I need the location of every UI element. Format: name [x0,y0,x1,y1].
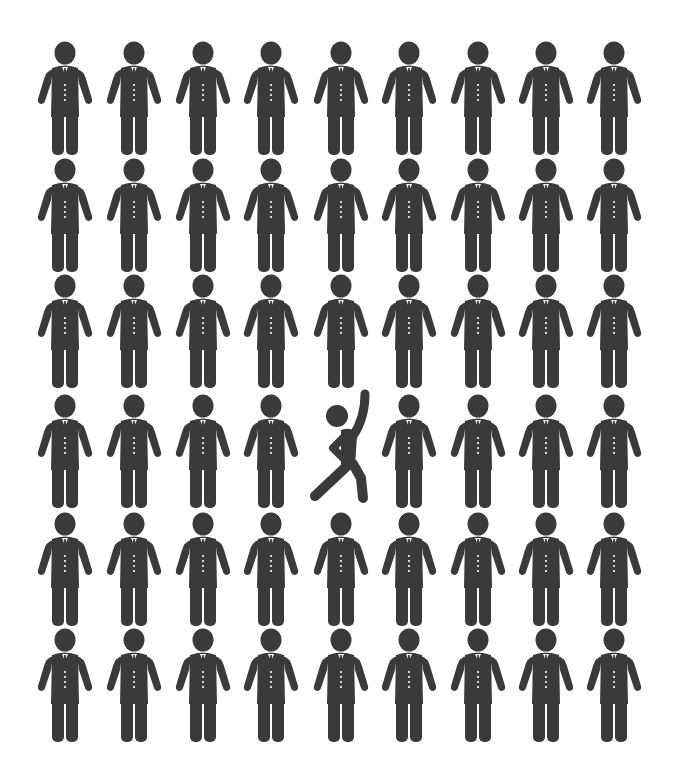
businessman-icon [173,394,233,510]
businessman-icon [104,41,164,157]
businessman-figure [104,512,164,628]
businessman-icon [173,274,233,390]
businessman-icon [35,628,95,744]
businessman-icon [584,394,644,510]
businessman-figure [516,41,576,157]
businessman-icon [173,512,233,628]
businessman-figure [379,512,439,628]
businessman-figure [173,394,233,510]
businessman-figure [311,628,371,744]
businessman-icon [35,394,95,510]
businessman-icon [173,628,233,744]
businessman-icon [311,41,371,157]
businessman-icon [516,394,576,510]
businessman-icon [516,628,576,744]
businessman-icon [448,628,508,744]
businessman-figure [104,394,164,510]
businessman-figure [584,274,644,390]
businessman-figure [516,274,576,390]
businessman-icon [241,158,301,274]
businessman-icon [379,512,439,628]
businessman-icon [241,512,301,628]
businessman-figure [379,158,439,274]
businessman-figure [35,41,95,157]
businessman-icon [35,41,95,157]
businessman-icon [584,512,644,628]
businessman-figure [173,274,233,390]
businessman-icon [516,41,576,157]
businessman-figure [311,274,371,390]
businessman-icon [516,274,576,390]
businessman-icon [516,158,576,274]
dancer-icon [303,386,383,506]
businessman-icon [379,41,439,157]
businessman-figure [241,628,301,744]
businessman-figure [584,628,644,744]
businessman-figure [516,394,576,510]
businessman-figure [584,41,644,157]
businessman-icon [448,158,508,274]
businessman-figure [311,158,371,274]
businessman-icon [584,628,644,744]
dancer-figure [303,386,383,506]
businessman-icon [35,158,95,274]
businessman-figure [448,158,508,274]
businessman-figure [516,158,576,274]
businessman-figure [35,628,95,744]
businessman-icon [104,512,164,628]
businessman-figure [173,41,233,157]
businessman-figure [35,158,95,274]
businessman-icon [35,274,95,390]
businessman-figure [311,41,371,157]
businessman-figure [241,41,301,157]
businessman-icon [241,274,301,390]
businessman-figure [35,394,95,510]
businessman-figure [104,628,164,744]
businessman-figure [379,394,439,510]
businessman-icon [584,158,644,274]
businessman-figure [173,512,233,628]
businessman-figure [448,274,508,390]
businessman-figure [379,41,439,157]
businessman-figure [241,158,301,274]
businessman-icon [584,41,644,157]
businessman-figure [584,158,644,274]
businessman-figure [448,394,508,510]
businessman-icon [311,158,371,274]
businessman-icon [311,512,371,628]
businessman-icon [448,41,508,157]
businessman-icon [379,274,439,390]
businessman-figure [448,628,508,744]
businessman-figure [584,394,644,510]
businessman-icon [241,628,301,744]
businessman-icon [311,628,371,744]
businessman-icon [584,274,644,390]
businessman-figure [35,274,95,390]
businessman-icon [241,41,301,157]
businessman-figure [379,628,439,744]
businessman-figure [104,158,164,274]
businessman-figure [241,274,301,390]
businessman-icon [104,394,164,510]
businessman-icon [104,628,164,744]
businessman-icon [104,274,164,390]
businessman-figure [448,512,508,628]
pictogram-grid [0,0,681,783]
businessman-figure [241,394,301,510]
businessman-figure [448,41,508,157]
businessman-figure [311,512,371,628]
businessman-figure [516,628,576,744]
businessman-icon [173,158,233,274]
businessman-icon [379,628,439,744]
businessman-figure [104,41,164,157]
businessman-figure [173,158,233,274]
businessman-icon [35,512,95,628]
businessman-icon [311,274,371,390]
businessman-icon [173,41,233,157]
businessman-figure [35,512,95,628]
businessman-icon [448,512,508,628]
businessman-icon [104,158,164,274]
businessman-figure [584,512,644,628]
businessman-figure [241,512,301,628]
businessman-icon [379,394,439,510]
